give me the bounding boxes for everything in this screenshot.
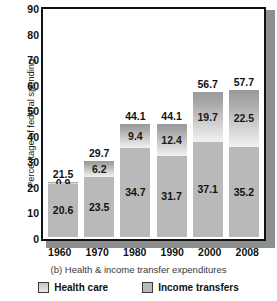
- health-care-swatch-icon: [38, 282, 49, 293]
- bars-container: 21.50.920.629.76.223.544.19.434.744.112.…: [45, 11, 262, 237]
- x-tick-label: 1960: [45, 246, 75, 258]
- figure-caption: (b) Health & income transfer expenditure…: [0, 264, 277, 275]
- x-axis-tick-labels: 196019701980199020002008: [41, 246, 266, 258]
- chart-figure: Percentage of federal spending 90 80 70 …: [0, 0, 277, 301]
- bar-segment-income-transfers[interactable]: 31.7: [157, 156, 187, 237]
- y-tick-label: 90: [27, 3, 39, 15]
- y-tick-label: 40: [27, 131, 39, 143]
- x-tick-label: 1990: [157, 246, 187, 258]
- chart-legend: Health care Income transfers: [0, 282, 277, 293]
- income-transfers-swatch-icon: [142, 282, 153, 293]
- y-tick-label: 10: [27, 207, 39, 219]
- x-tick-label: 2008: [232, 246, 262, 258]
- bar-segment-value: 31.7: [161, 191, 181, 202]
- y-tick-label: 20: [27, 182, 39, 194]
- x-tick-label: 2000: [195, 246, 225, 258]
- y-tick-label: 60: [27, 80, 39, 92]
- y-tick-label: 70: [27, 54, 39, 66]
- bar-segment-income-transfers[interactable]: 34.7: [120, 148, 150, 237]
- y-tick-label: 0: [33, 233, 39, 245]
- x-tick-label: 1970: [82, 246, 112, 258]
- bar-segment-value: 37.1: [197, 184, 217, 195]
- legend-label: Income transfers: [158, 282, 239, 293]
- bar-segment-value: 19.7: [197, 112, 217, 123]
- legend-item-income-transfers: Income transfers: [142, 282, 239, 293]
- bar-column: 21.50.920.6: [48, 11, 78, 237]
- bar-segment-value: 12.4: [161, 135, 181, 146]
- stacked-bar[interactable]: 56.719.737.1: [193, 92, 223, 237]
- bar-segment-value: 22.5: [234, 113, 254, 124]
- stacked-bar[interactable]: 21.50.920.6: [48, 182, 78, 237]
- bar-total-label: 29.7: [89, 147, 109, 159]
- bar-segment-income-transfers[interactable]: 23.5: [84, 177, 114, 237]
- bar-segment-health-care[interactable]: 9.4: [120, 124, 150, 148]
- bar-column: 44.19.434.7: [120, 11, 150, 237]
- plot-area-wrapper: 90 80 70 60 50 40 30 20 10 0 21.50.920.6…: [41, 7, 270, 245]
- legend-label: Health care: [54, 282, 108, 293]
- bar-total-label: 44.1: [161, 110, 181, 122]
- bar-segment-value: 9.4: [128, 131, 143, 142]
- bar-segment-value: 6.2: [92, 164, 107, 175]
- legend-item-health-care: Health care: [38, 282, 108, 293]
- bar-segment-health-care[interactable]: 12.4: [157, 124, 187, 156]
- bar-segment-income-transfers[interactable]: 37.1: [193, 142, 223, 237]
- bar-segment-value: 23.5: [89, 202, 109, 213]
- x-tick-label: 1980: [120, 246, 150, 258]
- y-tick-label: 30: [27, 156, 39, 168]
- stacked-bar[interactable]: 44.19.434.7: [120, 124, 150, 237]
- bar-segment-value: 20.6: [53, 205, 73, 216]
- bar-segment-value: 35.2: [234, 187, 254, 198]
- stacked-bar[interactable]: 57.722.535.2: [229, 90, 259, 237]
- bar-segment-health-care[interactable]: 22.5: [229, 90, 259, 148]
- bar-segment-health-care[interactable]: 6.2: [84, 161, 114, 177]
- bar-total-label: 44.1: [125, 110, 145, 122]
- bar-column: 57.722.535.2: [229, 11, 259, 237]
- bar-segment-value: 34.7: [125, 187, 145, 198]
- y-tick-label: 80: [27, 29, 39, 41]
- bar-segment-income-transfers[interactable]: 35.2: [229, 147, 259, 237]
- bar-segment-income-transfers[interactable]: 20.6: [48, 184, 78, 237]
- bar-column: 29.76.223.5: [84, 11, 114, 237]
- stacked-bar[interactable]: 29.76.223.5: [84, 161, 114, 237]
- bar-total-label: 57.7: [234, 76, 254, 88]
- y-tick-label: 50: [27, 105, 39, 117]
- bar-column: 44.112.431.7: [157, 11, 187, 237]
- bar-column: 56.719.737.1: [193, 11, 223, 237]
- plot-area: 90 80 70 60 50 40 30 20 10 0 21.50.920.6…: [41, 7, 266, 241]
- bar-total-label: 56.7: [197, 78, 217, 90]
- stacked-bar[interactable]: 44.112.431.7: [157, 124, 187, 237]
- bar-segment-health-care[interactable]: 19.7: [193, 92, 223, 142]
